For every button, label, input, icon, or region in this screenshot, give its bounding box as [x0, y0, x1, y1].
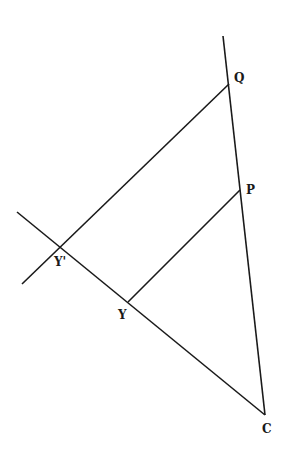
- line-yc: [17, 212, 265, 415]
- label-y: Y: [117, 308, 127, 322]
- label-q: Q: [234, 71, 244, 85]
- label-p: P: [246, 183, 255, 197]
- segment-py: [128, 190, 240, 302]
- line-q-yprime: [22, 84, 229, 284]
- geometry-diagram: Q P Y' Y C: [0, 0, 288, 456]
- line-qc: [223, 36, 265, 415]
- label-c: C: [262, 422, 272, 436]
- label-y-prime: Y': [53, 255, 66, 269]
